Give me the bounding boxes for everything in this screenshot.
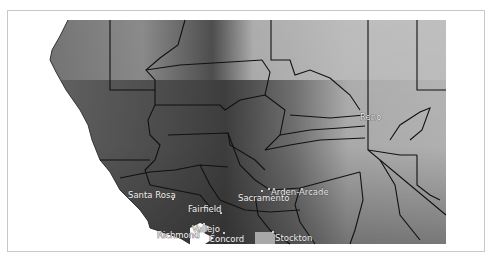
city-label-concord[interactable]: Concord [209, 234, 244, 244]
city-label-richmond[interactable]: Richmond [157, 230, 200, 240]
city-label-reno[interactable]: Reno [360, 112, 381, 122]
city-label-arden-arcade[interactable]: Arden-Arcade [271, 187, 329, 197]
elevation-map[interactable]: Reno Santa Rosa Fairfield Sacramento Ard… [0, 0, 496, 258]
city-label-santa-rosa[interactable]: Santa Rosa [128, 190, 176, 200]
city-label-stockton[interactable]: Stockton [275, 233, 312, 243]
terrain-layer [40, 20, 450, 250]
city-label-fairfield[interactable]: Fairfield [188, 204, 222, 214]
